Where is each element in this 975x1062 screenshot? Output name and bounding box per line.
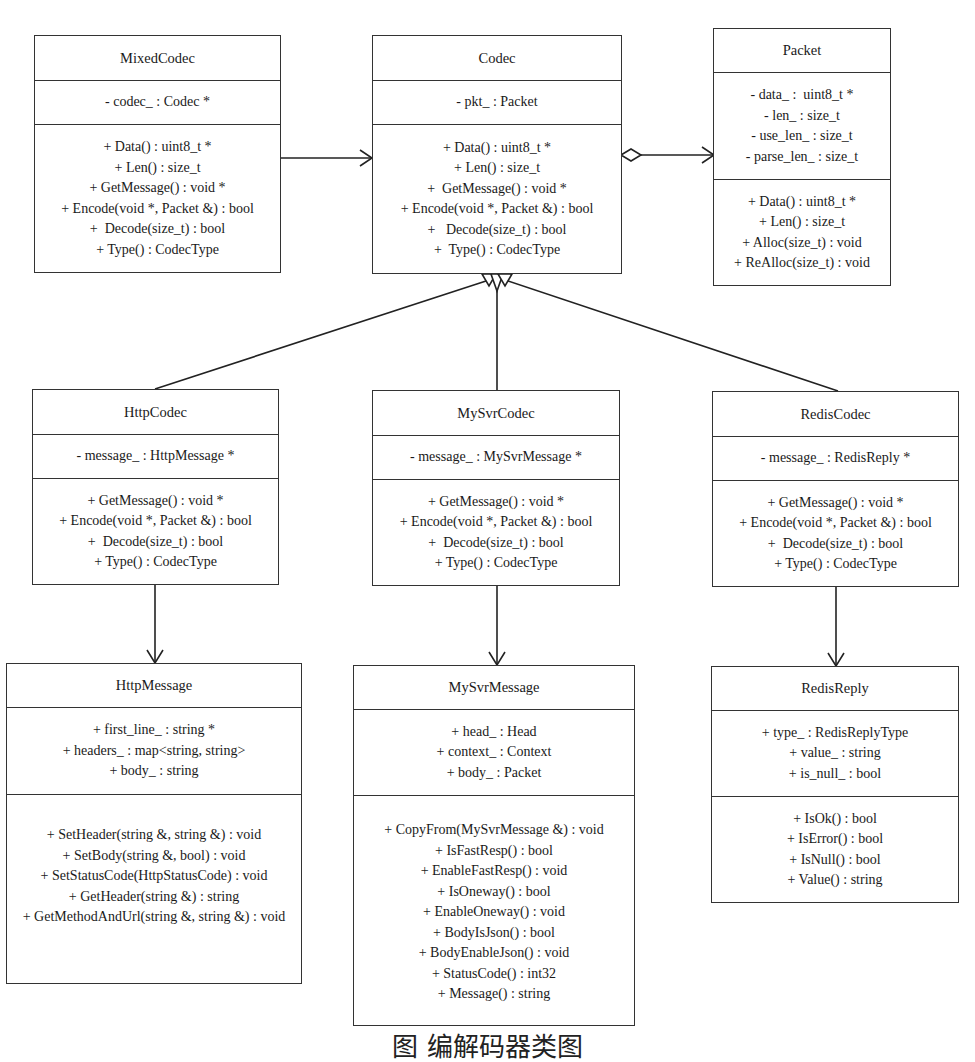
- attribute: + body_ : string: [109, 761, 198, 782]
- attribute: - message_ : MySvrMessage *: [410, 447, 582, 468]
- class-http-message: HttpMessage + first_line_ : string * + h…: [6, 663, 302, 984]
- operation: + Len() : size_t: [454, 158, 540, 179]
- class-mysvr-codec: MySvrCodec - message_ : MySvrMessage * +…: [372, 390, 620, 586]
- hollow-triangle-icon: [491, 274, 503, 291]
- operation: + GetMessage() : void *: [87, 491, 223, 512]
- operation: + BodyIsJson() : bool: [433, 923, 555, 944]
- operation: + Encode(void *, Packet &) : bool: [400, 512, 593, 533]
- operation: + Type() : CodecType: [96, 240, 219, 261]
- operation: + GetMessage() : void *: [427, 179, 567, 200]
- operation: + GetHeader(string &) : string: [69, 887, 239, 908]
- operation: + Len() : size_t: [114, 158, 200, 179]
- class-name: MixedCodec: [35, 36, 280, 81]
- class-name: HttpMessage: [7, 664, 301, 708]
- class-name: MySvrMessage: [354, 666, 634, 710]
- operation: + Alloc(size_t) : void: [742, 233, 862, 254]
- open-arrow-icon: [489, 652, 505, 665]
- operation: + StatusCode() : int32: [432, 964, 556, 985]
- operation: + Value() : string: [787, 870, 882, 891]
- attribute: - parse_len_ : size_t: [746, 147, 858, 168]
- attributes-compartment: + head_ : Head + context_ : Context + bo…: [354, 710, 634, 796]
- operation: + Encode(void *, Packet &) : bool: [401, 199, 594, 220]
- attribute: + type_ : RedisReplyType: [762, 723, 909, 744]
- operations-compartment: + GetMessage() : void * + Encode(void *,…: [33, 479, 278, 584]
- operation: + Encode(void *, Packet &) : bool: [739, 513, 932, 534]
- class-codec: Codec - pkt_ : Packet + Data() : uint8_t…: [372, 35, 622, 274]
- operation: + Type() : CodecType: [774, 554, 897, 575]
- operation: + Encode(void *, Packet &) : bool: [61, 199, 254, 220]
- operation: + IsError() : bool: [787, 829, 883, 850]
- operation: + Data() : uint8_t *: [103, 137, 211, 158]
- operation: + EnableFastResp() : void: [421, 861, 568, 882]
- class-mysvr-message: MySvrMessage + head_ : Head + context_ :…: [353, 665, 635, 1026]
- class-name: RedisCodec: [713, 392, 958, 437]
- operation: + EnableOneway() : void: [423, 902, 565, 923]
- operations-compartment: + Data() : uint8_t * + Len() : size_t + …: [373, 125, 621, 273]
- operation: + Type() : CodecType: [94, 552, 217, 573]
- operation: + BodyEnableJson() : void: [419, 943, 570, 964]
- attribute: + value_ : string: [789, 743, 881, 764]
- attribute: - use_len_ : size_t: [751, 126, 852, 147]
- operation: + Type() : CodecType: [435, 553, 558, 574]
- operations-compartment: + CopyFrom(MySvrMessage &) : void + IsFa…: [354, 796, 634, 1025]
- operation: + IsOk() : bool: [793, 809, 877, 830]
- class-packet: Packet - data_ : uint8_t * - len_ : size…: [713, 28, 891, 286]
- operations-compartment: + Data() : uint8_t * + Len() : size_t + …: [714, 180, 890, 285]
- hollow-triangle-icon: [498, 274, 512, 286]
- class-http-codec: HttpCodec - message_ : HttpMessage * + G…: [32, 389, 279, 585]
- operation: + Data() : uint8_t *: [443, 138, 551, 159]
- operation: + Decode(size_t) : bool: [88, 532, 223, 553]
- operation: + GetMessage() : void *: [767, 493, 903, 514]
- operations-compartment: + GetMessage() : void * + Encode(void *,…: [713, 481, 958, 586]
- attributes-compartment: - message_ : MySvrMessage *: [373, 436, 619, 480]
- operation: + IsOneway() : bool: [437, 882, 550, 903]
- figure-caption: 图 编解码器类图: [0, 1032, 975, 1062]
- operation: + CopyFrom(MySvrMessage &) : void: [384, 820, 603, 841]
- open-arrow-icon: [360, 150, 372, 166]
- operation: + GetMessage() : void *: [428, 492, 564, 513]
- operation: + GetMessage() : void *: [89, 178, 225, 199]
- operations-compartment: + Data() : uint8_t * + Len() : size_t + …: [35, 125, 280, 272]
- operations-compartment: + IsOk() : bool + IsError() : bool + IsN…: [712, 797, 958, 902]
- attribute: + context_ : Context: [437, 742, 552, 763]
- attribute: - data_ : uint8_t *: [750, 85, 853, 106]
- attribute: - message_ : HttpMessage *: [77, 446, 235, 467]
- operation: + Type() : CodecType: [434, 240, 560, 261]
- generalization-http-line: [155, 281, 486, 389]
- attributes-compartment: - codec_ : Codec *: [35, 81, 280, 125]
- attribute: - len_ : size_t: [764, 106, 840, 127]
- generalization-redis-line: [508, 281, 838, 391]
- operation: + Encode(void *, Packet &) : bool: [59, 511, 252, 532]
- attributes-compartment: + first_line_ : string * + headers_ : ma…: [7, 708, 301, 795]
- attribute: + is_null_ : bool: [789, 764, 881, 785]
- operation: + ReAlloc(size_t) : void: [734, 253, 870, 274]
- attribute: + first_line_ : string *: [93, 720, 215, 741]
- class-name: MySvrCodec: [373, 391, 619, 436]
- operation: + IsFastResp() : bool: [435, 841, 553, 862]
- class-redis-reply: RedisReply + type_ : RedisReplyType + va…: [711, 666, 959, 903]
- operation: + IsNull() : bool: [789, 850, 881, 871]
- operations-compartment: + SetHeader(string &, string &) : void +…: [7, 795, 301, 983]
- attributes-compartment: - message_ : HttpMessage *: [33, 435, 278, 479]
- operation: + SetBody(string &, bool) : void: [63, 846, 246, 867]
- operation: + GetMethodAndUrl(string &, string &) : …: [23, 907, 286, 928]
- operation: + Decode(size_t) : bool: [768, 534, 903, 555]
- operation: + Decode(size_t) : bool: [90, 219, 225, 240]
- attributes-compartment: - data_ : uint8_t * - len_ : size_t - us…: [714, 73, 890, 180]
- class-redis-codec: RedisCodec - message_ : RedisReply * + G…: [712, 391, 959, 587]
- class-mixed-codec: MixedCodec - codec_ : Codec * + Data() :…: [34, 35, 281, 273]
- attribute: + body_ : Packet: [447, 763, 542, 784]
- class-name: Packet: [714, 29, 890, 73]
- open-arrow-icon: [828, 653, 844, 666]
- attribute: + head_ : Head: [451, 722, 536, 743]
- attribute: + headers_ : map<string, string>: [63, 741, 246, 762]
- operation: + Data() : uint8_t *: [748, 192, 856, 213]
- class-name: RedisReply: [712, 667, 958, 711]
- attribute: - pkt_ : Packet: [456, 92, 537, 113]
- operation: + Len() : size_t: [759, 212, 845, 233]
- attributes-compartment: + type_ : RedisReplyType + value_ : stri…: [712, 711, 958, 797]
- operation: + Message() : string: [438, 984, 551, 1005]
- aggregation-diamond-icon: [621, 149, 641, 161]
- class-name: HttpCodec: [33, 390, 278, 435]
- hollow-triangle-icon: [482, 274, 496, 286]
